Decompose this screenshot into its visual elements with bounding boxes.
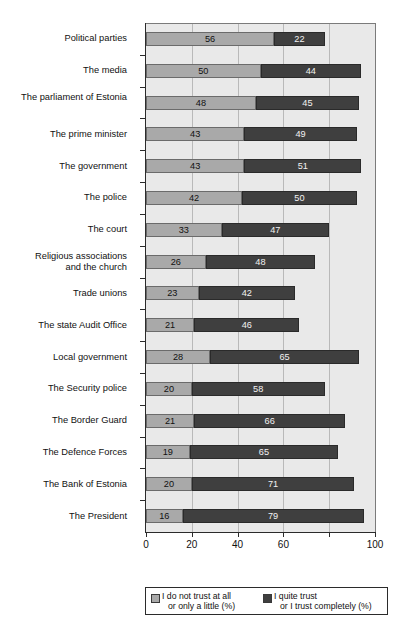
y-tick-9 (140, 309, 145, 310)
bar-row: 4845 (146, 96, 375, 110)
category-label: The parliament of Estonia (0, 92, 127, 103)
bar-segment-low-trust: 19 (146, 445, 190, 459)
y-tick-6 (140, 214, 145, 215)
y-tick-11 (140, 373, 145, 374)
legend-label-high-trust-line1: I quite trust (274, 591, 317, 601)
bar-segment-low-trust: 20 (146, 382, 192, 396)
bar-segment-low-trust: 50 (146, 64, 261, 78)
bar-segment-low-trust: 43 (146, 159, 244, 173)
bar-segment-high-trust: 42 (199, 286, 295, 300)
bar-segment-low-trust: 26 (146, 255, 206, 269)
bar-row: 2071 (146, 477, 375, 491)
trust-in-institutions-chart: Political partiesThe mediaThe parliament… (0, 0, 396, 620)
category-label: The Defence Forces (0, 447, 127, 458)
y-tick-14 (140, 468, 145, 469)
bar-segment-high-trust: 46 (194, 318, 299, 332)
category-label: The media (0, 65, 127, 76)
legend-label-low-trust-line1: I do not trust at all (162, 591, 231, 601)
legend-label-high-trust-line2: or I trust completely (%) (274, 601, 372, 611)
legend-label-low-trust: I do not trust at all or only a little (… (162, 591, 235, 612)
category-label: The prime minister (0, 129, 127, 140)
bar-segment-low-trust: 20 (146, 477, 192, 491)
y-tick-5 (140, 182, 145, 183)
category-label: Religious associationsand the church (0, 251, 127, 272)
bar-row: 1965 (146, 445, 375, 459)
category-label: The state Audit Office (0, 320, 127, 331)
legend-swatch-dark-icon (263, 594, 272, 603)
bar-segment-high-trust: 71 (192, 477, 355, 491)
x-tick-100 (375, 533, 376, 537)
category-label: The court (0, 224, 127, 235)
category-label: The police (0, 192, 127, 203)
x-tick-40 (238, 533, 239, 537)
bar-segment-low-trust: 48 (146, 96, 256, 110)
bar-segment-low-trust: 42 (146, 191, 242, 205)
bar-segment-high-trust: 50 (242, 191, 357, 205)
bar-segment-high-trust: 65 (190, 445, 339, 459)
y-tick-7 (140, 246, 145, 247)
bar-segment-high-trust: 51 (244, 159, 361, 173)
bar-segment-high-trust: 44 (261, 64, 362, 78)
bar-segment-high-trust: 48 (206, 255, 316, 269)
x-tick-label-40: 40 (218, 539, 258, 550)
bar-segment-high-trust: 47 (222, 223, 330, 237)
bar-row: 2058 (146, 382, 375, 396)
y-tick-10 (140, 341, 145, 342)
bar-segment-high-trust: 49 (244, 127, 356, 141)
y-tick-4 (140, 150, 145, 151)
y-tick-15 (140, 500, 145, 501)
category-label: Political parties (0, 33, 127, 44)
bar-segment-low-trust: 16 (146, 509, 183, 523)
bar-segment-high-trust: 79 (183, 509, 364, 523)
category-label: Trade unions (0, 288, 127, 299)
category-axis-labels: Political partiesThe mediaThe parliament… (0, 23, 130, 532)
x-axis-line (145, 532, 376, 533)
x-tick-80 (329, 533, 330, 537)
bar-row: 5622 (146, 32, 375, 46)
x-tick-20 (192, 533, 193, 537)
bar-segment-low-trust: 33 (146, 223, 222, 237)
bar-segment-low-trust: 21 (146, 414, 194, 428)
x-tick-label-60: 60 (263, 539, 303, 550)
bar-row: 4250 (146, 191, 375, 205)
bar-segment-low-trust: 21 (146, 318, 194, 332)
y-tick-3 (140, 118, 145, 119)
category-label: Local government (0, 352, 127, 363)
category-label: The Bank of Estonia (0, 479, 127, 490)
bar-row: 2648 (146, 255, 375, 269)
bar-row: 2166 (146, 414, 375, 428)
bar-row: 2146 (146, 318, 375, 332)
x-tick-label-0: 0 (126, 539, 166, 550)
bar-segment-low-trust: 43 (146, 127, 244, 141)
legend-label-low-trust-line2: or only a little (%) (162, 601, 235, 611)
bar-row: 1679 (146, 509, 375, 523)
bar-segment-low-trust: 28 (146, 350, 210, 364)
category-label: The President (0, 511, 127, 522)
category-label: The Security police (0, 383, 127, 394)
bar-segment-high-trust: 65 (210, 350, 359, 364)
chart-legend: I do not trust at all or only a little (… (145, 587, 388, 615)
bar-row: 2342 (146, 286, 375, 300)
legend-label-high-trust: I quite trust or I trust completely (%) (274, 591, 372, 612)
y-tick-2 (140, 87, 145, 88)
bar-row: 4351 (146, 159, 375, 173)
bar-row: 2865 (146, 350, 375, 364)
bar-segment-high-trust: 45 (256, 96, 359, 110)
bar-row: 5044 (146, 64, 375, 78)
x-tick-label-100: 100 (355, 539, 395, 550)
x-tick-label-20: 20 (172, 539, 212, 550)
bar-segment-high-trust: 66 (194, 414, 345, 428)
x-tick-60 (283, 533, 284, 537)
legend-swatch-light-icon (151, 594, 160, 603)
category-label: The government (0, 161, 127, 172)
category-label: The Border Guard (0, 415, 127, 426)
bar-row: 3347 (146, 223, 375, 237)
bar-row: 4349 (146, 127, 375, 141)
x-tick-0 (146, 533, 147, 537)
bar-segment-high-trust: 58 (192, 382, 325, 396)
bar-segment-high-trust: 22 (274, 32, 324, 46)
bar-segment-low-trust: 23 (146, 286, 199, 300)
y-tick-1 (140, 55, 145, 56)
y-tick-8 (140, 278, 145, 279)
y-tick-12 (140, 405, 145, 406)
